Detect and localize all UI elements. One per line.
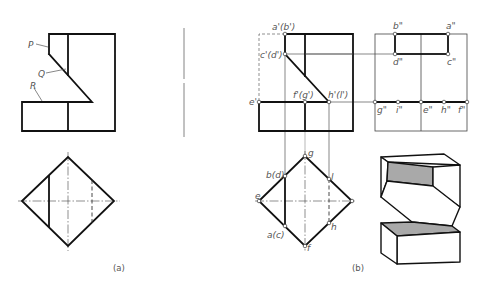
label-e: e [255, 191, 261, 201]
caption-b: (b) [352, 263, 364, 273]
label-b-d: b(d) [266, 170, 284, 180]
label-h-double-prime: h" [441, 105, 451, 115]
figure-a-front-view: P Q R [22, 34, 115, 131]
figure-b-top-view: g b(d) l e a(c) h f [255, 148, 356, 253]
label-f-double-prime: f" [458, 105, 465, 115]
label-plane-p: P [28, 40, 34, 50]
label-b-double-prime: b" [393, 21, 403, 31]
label-f-g-prime: f'(g') [293, 90, 314, 100]
label-i-double-prime: i" [396, 105, 403, 115]
figure-b: a'(b') c'(d') e' f'(g') h'(l') b" a" d" … [249, 21, 469, 273]
label-f: f [307, 243, 312, 253]
label-g-double-prime: g" [377, 105, 387, 115]
label-a-c: a(c) [267, 230, 285, 240]
engineering-drawing: P Q R (a) [0, 0, 494, 287]
label-plane-r: R [30, 81, 36, 91]
label-plane-q: Q [38, 69, 45, 79]
label-h-l-prime: h'(l') [328, 90, 348, 100]
label-a-double-prime: a" [446, 21, 456, 31]
label-d-double-prime: d" [393, 57, 403, 67]
isometric-view [381, 154, 460, 264]
label-g: g [308, 148, 314, 158]
label-e-prime: e' [249, 97, 257, 107]
label-c-double-prime: c" [447, 57, 456, 67]
figure-a: P Q R (a) [18, 34, 125, 273]
label-a-b-prime: a'(b') [272, 22, 295, 32]
caption-a: (a) [113, 263, 125, 273]
label-e-double-prime: e" [423, 105, 433, 115]
figure-a-top-view [18, 152, 120, 251]
label-l: l [331, 172, 334, 182]
figure-b-side-view: b" a" d" c" g" i" e" h" f" [373, 21, 469, 131]
figure-b-front-view: a'(b') c'(d') e' f'(g') h'(l') [249, 22, 353, 131]
label-c-d-prime: c'(d') [260, 50, 283, 60]
label-h: h [331, 222, 337, 232]
